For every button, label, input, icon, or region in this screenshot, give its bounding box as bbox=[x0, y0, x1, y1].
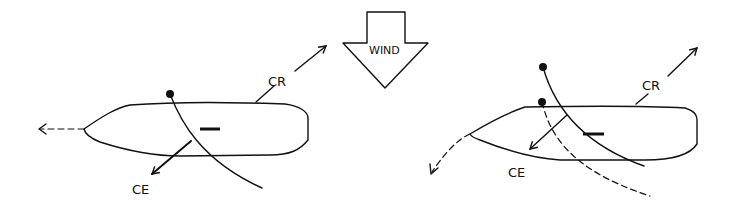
right-ce-arrow bbox=[530, 115, 567, 149]
right-sail-curve bbox=[543, 67, 644, 166]
right-heading-curve bbox=[432, 134, 470, 172]
left-ce-label: CE bbox=[132, 182, 149, 197]
wind-arrow: WIND bbox=[343, 12, 428, 88]
right-cr-arrow bbox=[668, 48, 697, 76]
left-hull bbox=[84, 103, 308, 156]
left-ce-arrow bbox=[152, 141, 191, 174]
wind-label: WIND bbox=[369, 44, 400, 57]
left-cr-label: CR bbox=[268, 74, 286, 89]
left-sail-curve bbox=[170, 94, 262, 188]
sailing-forces-diagram: WIND CE CR CE bbox=[0, 0, 733, 211]
right-ce-label: CE bbox=[508, 165, 525, 180]
left-boat: CE CR bbox=[39, 46, 326, 197]
right-cr-label: CR bbox=[642, 78, 660, 93]
left-cr-arrow bbox=[295, 46, 326, 71]
right-sail-curve-previous bbox=[542, 102, 650, 196]
right-boat: CE CR bbox=[430, 48, 697, 196]
right-cr-tick bbox=[636, 94, 648, 104]
